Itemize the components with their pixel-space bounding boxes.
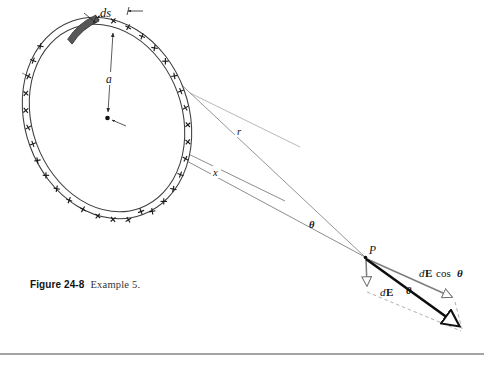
dE-cos-label-E: E xyxy=(425,267,432,279)
ring-edge-construction-line xyxy=(190,93,300,147)
figure-caption-text: Example 5. xyxy=(90,279,140,290)
theta-vector-label: θ xyxy=(406,285,412,296)
point-p-label: P xyxy=(368,244,376,256)
charged-ring xyxy=(0,0,219,243)
figure-canvas: ds a r x θ xyxy=(0,0,484,369)
figure-24-8: ds a r x θ xyxy=(0,0,484,369)
dE-cos-label-cos: cos xyxy=(436,267,451,279)
x-distance-label: x xyxy=(212,167,218,178)
center-dot xyxy=(105,116,110,121)
figure-number: Figure 24-8 xyxy=(30,279,84,290)
point-p-marker xyxy=(364,256,368,260)
dE-label-E: E xyxy=(386,286,393,298)
radius-a-label: a xyxy=(106,73,112,85)
dE-vector xyxy=(366,259,367,286)
field-vector-diagram: P d E θ d E cos θ xyxy=(364,244,463,331)
distance-labels: r x xyxy=(211,125,245,178)
theta-axis-label: θ xyxy=(309,219,315,230)
dE-cos-label-theta: θ xyxy=(457,267,463,279)
dE-cos-theta-label: d E cos θ xyxy=(419,267,463,279)
ds-label: ds xyxy=(100,6,111,20)
figure-caption: Figure 24-8Example 5. xyxy=(30,279,140,290)
dE-label: d E xyxy=(380,286,393,298)
